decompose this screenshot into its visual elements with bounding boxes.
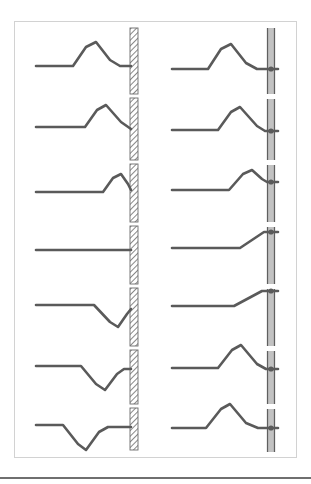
figure-root bbox=[0, 0, 311, 484]
left-wave-row-7 bbox=[36, 425, 131, 450]
right-wave-group bbox=[172, 44, 278, 431]
membrane-segment-5 bbox=[267, 289, 275, 346]
wall-segment-3 bbox=[130, 164, 138, 222]
right-membrane-group bbox=[267, 28, 275, 452]
right-wave-row-3 bbox=[172, 170, 278, 190]
left-wave-row-5 bbox=[36, 305, 131, 327]
right-wave-row-6 bbox=[172, 345, 278, 369]
right-wave-row-2 bbox=[172, 107, 278, 131]
wall-segment-1 bbox=[130, 28, 138, 94]
wall-segment-7 bbox=[130, 408, 138, 450]
membrane-segment-1 bbox=[267, 28, 275, 94]
right-junction-dot-6 bbox=[268, 366, 273, 371]
wall-segment-4 bbox=[130, 226, 138, 284]
bottom-horizontal-rule bbox=[0, 477, 311, 479]
wall-segment-5 bbox=[130, 288, 138, 346]
right-wave-row-5 bbox=[172, 291, 278, 306]
left-wave-group bbox=[36, 42, 131, 450]
right-junction-dot-1 bbox=[268, 66, 273, 71]
left-wall-group bbox=[130, 28, 138, 450]
wall-segment-6 bbox=[130, 350, 138, 404]
right-junction-dot-4 bbox=[268, 229, 273, 234]
right-junction-dot-3 bbox=[268, 179, 273, 184]
right-wave-row-1 bbox=[172, 44, 278, 69]
wave-reflection-diagram bbox=[0, 0, 311, 484]
right-wave-row-4 bbox=[172, 232, 278, 248]
left-wave-row-6 bbox=[36, 366, 131, 390]
membrane-segment-4 bbox=[267, 227, 275, 284]
left-wave-row-2 bbox=[36, 105, 131, 129]
right-junction-dot-7 bbox=[268, 425, 273, 430]
right-wave-row-7 bbox=[172, 404, 278, 428]
right-junction-dot-5 bbox=[268, 288, 273, 293]
membrane-segment-6 bbox=[267, 351, 275, 404]
membrane-segment-3 bbox=[267, 165, 275, 222]
left-wave-row-3 bbox=[36, 174, 131, 192]
left-wave-row-1 bbox=[36, 42, 131, 66]
right-junction-dot-2 bbox=[268, 128, 273, 133]
